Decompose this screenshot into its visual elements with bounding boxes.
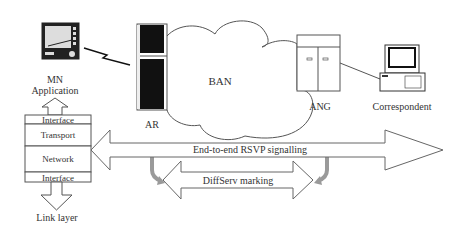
desktop-computer-icon (380, 45, 425, 91)
down-arrow-icon (41, 182, 72, 210)
ban-cloud-icon (167, 21, 313, 140)
mn-app-label: Application (31, 85, 78, 96)
ar-label: AR (145, 119, 159, 130)
mn-label: MN (47, 74, 63, 85)
rsvp-label: End-to-end RSVP signalling (193, 144, 307, 155)
up-arrow-icon (42, 98, 68, 115)
server-tower-icon (137, 24, 167, 110)
link-layer-label: Link layer (36, 212, 78, 223)
stack-layer-network: Network (42, 154, 74, 164)
network-diagram: BAN MN Application Interface Transport N… (0, 0, 452, 229)
stack-layer-transport: Transport (41, 130, 76, 140)
pda-device-icon (42, 23, 79, 59)
stack-layer-interface-top: Interface (42, 115, 74, 125)
ang-label: ANG (309, 101, 331, 112)
stack-layer-interface-bottom: Interface (42, 173, 74, 183)
correspondent-label: Correspondent (373, 101, 432, 112)
wireless-link-icon (84, 48, 130, 65)
diffserv-label: DiffServ marking (203, 175, 274, 186)
cabinet-icon (297, 35, 340, 91)
ban-label: BAN (208, 75, 231, 87)
ang-correspondent-link (340, 63, 380, 79)
